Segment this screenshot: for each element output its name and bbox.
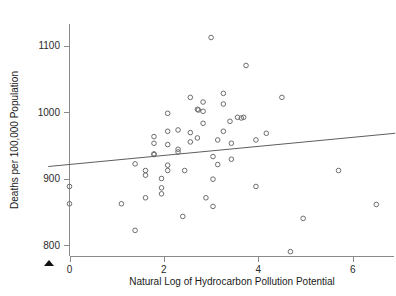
x-tick-label: 2	[161, 264, 167, 275]
scatter-point	[201, 100, 206, 105]
axes-group	[70, 24, 395, 257]
scatter-point	[204, 195, 209, 200]
scatter-point	[229, 157, 234, 162]
scatter-point	[188, 95, 193, 100]
x-tick-label: 0	[67, 264, 73, 275]
scatter-point	[215, 138, 220, 143]
caret-up-marker	[44, 260, 54, 266]
scatter-point	[229, 141, 234, 146]
scatter-point	[159, 176, 164, 181]
scatter-point	[195, 136, 200, 141]
scatter-point	[228, 119, 233, 124]
x-axis-title: Natural Log of Hydrocarbon Pollution Pot…	[129, 276, 335, 287]
scatter-point	[159, 186, 164, 191]
y-tick-label: 800	[43, 240, 60, 251]
scatter-point	[176, 128, 181, 133]
scatter-point	[159, 192, 164, 197]
y-axis-title: Deaths per 100,000 Population	[9, 71, 20, 209]
y-tick-label: 1100	[38, 40, 60, 51]
scatter-point	[221, 102, 226, 107]
scatter-point	[133, 228, 138, 233]
scatter-point	[264, 131, 269, 136]
scatter-point	[133, 162, 138, 167]
x-tick-label: 6	[350, 264, 356, 275]
y-tick-label: 1000	[38, 107, 61, 118]
x-tick-label: 4	[256, 264, 262, 275]
scatter-point	[221, 91, 226, 96]
scatter-point	[143, 173, 148, 178]
plot-canvas: 80090010001100 0246 Natural Log of Hydro…	[0, 0, 396, 296]
scatter-point	[280, 95, 285, 100]
x-tick-group: 0246	[67, 257, 356, 276]
scatter-point	[152, 134, 157, 139]
scatter-point	[209, 35, 214, 40]
scatter-point	[374, 202, 379, 207]
scatter-point	[221, 129, 226, 134]
scatter-point	[211, 204, 216, 209]
scatter-point	[288, 249, 293, 254]
scatter-point	[165, 142, 170, 147]
scatter-point	[188, 140, 193, 145]
scatter-point	[180, 214, 185, 219]
scatter-point	[152, 141, 157, 146]
scatter-point	[165, 129, 170, 134]
scatter-point	[254, 184, 259, 189]
regression-line	[48, 133, 395, 166]
y-tick-group: 80090010001100	[38, 40, 70, 251]
scatter-plot-figure: 80090010001100 0246 Natural Log of Hydro…	[0, 0, 396, 296]
scatter-point	[215, 162, 220, 167]
scatter-point	[119, 201, 124, 206]
scatter-point	[244, 63, 249, 68]
scatter-point	[211, 177, 216, 182]
scatter-point	[201, 121, 206, 126]
scatter-point	[254, 138, 259, 143]
scatter-point	[182, 168, 187, 173]
scatter-point	[201, 109, 206, 114]
scatter-point	[165, 168, 170, 173]
scatter-point	[301, 216, 306, 221]
scatter-point	[211, 154, 216, 159]
scatter-point	[165, 163, 170, 168]
scatter-point	[188, 130, 193, 135]
scatter-point	[143, 195, 148, 200]
scatter-point	[165, 111, 170, 116]
y-tick-label: 900	[43, 173, 60, 184]
scatter-point	[336, 168, 341, 173]
data-points-group	[67, 35, 378, 254]
scatter-point	[143, 168, 148, 173]
